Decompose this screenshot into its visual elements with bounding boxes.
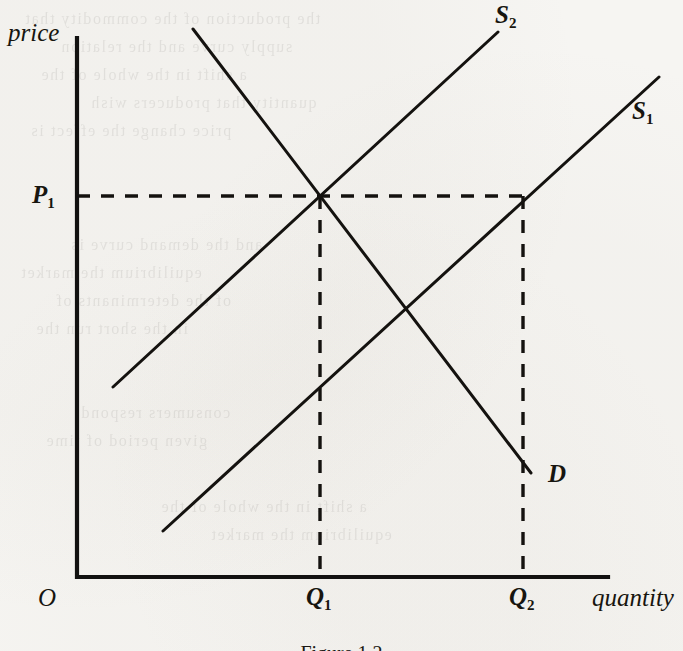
quantity-2-subscript: 2 xyxy=(527,597,535,613)
supply-1-symbol: S xyxy=(632,97,646,124)
quantity-1-symbol: Q xyxy=(306,583,324,610)
quantity-1-label: Q1 xyxy=(306,584,332,609)
supply-2-subscript: 2 xyxy=(509,15,517,31)
supply-1-subscript: 1 xyxy=(646,111,654,127)
supply-demand-chart xyxy=(0,0,683,651)
quantity-2-symbol: Q xyxy=(509,583,527,610)
supply-2-symbol: S xyxy=(495,1,509,28)
supply-curve-2 xyxy=(113,32,498,387)
origin-label: O xyxy=(38,585,56,610)
quantity-2-label: Q2 xyxy=(509,584,535,609)
supply-curve-1 xyxy=(163,77,659,531)
chart-axes xyxy=(77,38,608,577)
demand-curve xyxy=(193,29,531,473)
y-axis-label: price xyxy=(8,20,59,45)
demand-symbol: D xyxy=(548,460,566,487)
supply-curve-2-label: S2 xyxy=(495,2,516,27)
figure-container: the production of the commodity that sup… xyxy=(0,0,683,651)
figure-caption: Figure 1.2 xyxy=(0,642,683,651)
x-axis-label: quantity xyxy=(592,585,674,610)
price-1-symbol: P xyxy=(32,181,47,208)
price-1-subscript: 1 xyxy=(47,195,55,211)
demand-curve-label: D xyxy=(548,461,566,486)
quantity-1-subscript: 1 xyxy=(324,597,332,613)
supply-curve-1-label: S1 xyxy=(632,98,653,123)
price-1-label: P1 xyxy=(32,182,55,207)
